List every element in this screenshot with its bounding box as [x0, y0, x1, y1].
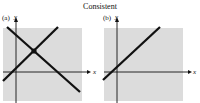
x-arrow-a: [87, 70, 91, 74]
intersection-point: [31, 48, 36, 53]
plot-area-b: [104, 28, 183, 101]
y-axis-label-a: y: [13, 13, 18, 21]
panel-a: (a) y x: [2, 13, 97, 103]
panel-label-b: (b): [103, 14, 112, 22]
panel-b: (b) y x: [103, 13, 197, 103]
panel-label-a: (a): [2, 14, 10, 22]
x-axis-label-b: x: [192, 68, 197, 76]
plot-area-a: [3, 28, 82, 101]
x-arrow-b: [188, 70, 192, 74]
chart-canvas: (a) y x (b) y x: [0, 0, 200, 103]
y-axis-label-b: y: [114, 13, 119, 21]
x-axis-label-a: x: [92, 68, 97, 76]
